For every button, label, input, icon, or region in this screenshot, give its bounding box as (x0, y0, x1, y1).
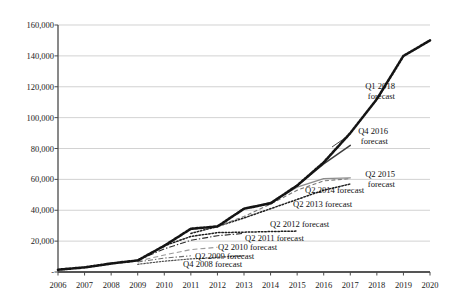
annotation-text: Q2 2015 (365, 169, 395, 179)
x-axis-tick-label: 2006 (50, 280, 67, 290)
x-axis-tick-label: 2007 (76, 280, 93, 290)
x-axis-tick-label: 2009 (129, 280, 146, 290)
annotation-q2-2015-forecast: Q2 2015forecast (365, 169, 395, 189)
x-axis-tick-label: 2011 (183, 280, 200, 290)
annotation-text: forecast (368, 179, 396, 189)
annotation-q4-2008-forecast: Q4 2008 forecast (183, 259, 243, 269)
x-axis-tick-label: 2013 (236, 280, 253, 290)
y-axis-tick-label: 80,000 (31, 144, 54, 154)
x-axis-tick-labels: 2006200720082009201020112012201320142015… (50, 280, 439, 290)
y-axis-tick-label: 40,000 (31, 205, 54, 215)
annotation-q1-2018-forecast: Q1 2018forecast (365, 81, 395, 101)
x-axis-tick-label: 2010 (156, 280, 173, 290)
annotation-text: Q2 2013 forecast (293, 199, 353, 209)
y-axis-tick-label: 20,000 (31, 236, 54, 246)
x-axis-tick-label: 2020 (422, 280, 439, 290)
x-axis-tick-label: 2008 (103, 280, 120, 290)
annotation-q2-2012-forecast: Q2 2012 forecast (270, 219, 330, 229)
y-axis-tick-labels: -20,00040,00060,00080,000100,000120,0001… (26, 20, 54, 277)
line-chart: -20,00040,00060,00080,000100,000120,0001… (0, 0, 450, 303)
annotation-text: forecast (361, 136, 389, 146)
y-axis-tick-label: - (51, 267, 54, 277)
y-axis-tick-label: 100,000 (26, 113, 54, 123)
annotation-text: Q4 2008 forecast (183, 259, 243, 269)
y-axis-tick-label: 140,000 (26, 51, 54, 61)
x-axis-tick-label: 2017 (342, 280, 359, 290)
annotation-text: forecast (368, 91, 396, 101)
annotation-text: Q4 2016 (358, 126, 389, 136)
annotation-q4-2016-forecast: Q4 2016forecast (358, 126, 389, 146)
x-axis-tick-label: 2016 (315, 280, 332, 290)
annotation-text: Q2 2012 forecast (270, 219, 330, 229)
x-axis-tick-label: 2019 (395, 280, 412, 290)
annotation-text: Q2 2014 forecast (305, 185, 365, 195)
x-axis-tick-label: 2012 (209, 280, 226, 290)
x-axis-tick-label: 2015 (289, 280, 306, 290)
annotation-text: Q1 2018 (365, 81, 395, 91)
y-axis-tick-label: 120,000 (26, 82, 54, 92)
x-axis-tick-label: 2018 (368, 280, 385, 290)
chart-container: -20,00040,00060,00080,000100,000120,0001… (0, 0, 450, 303)
annotation-q2-2014-forecast: Q2 2014 forecast (305, 185, 365, 195)
annotation-q2-2013-forecast: Q2 2013 forecast (293, 199, 353, 209)
y-axis-tick-label: 160,000 (26, 20, 54, 30)
y-axis-tick-label: 60,000 (31, 174, 54, 184)
x-axis-tick-label: 2014 (262, 280, 280, 290)
